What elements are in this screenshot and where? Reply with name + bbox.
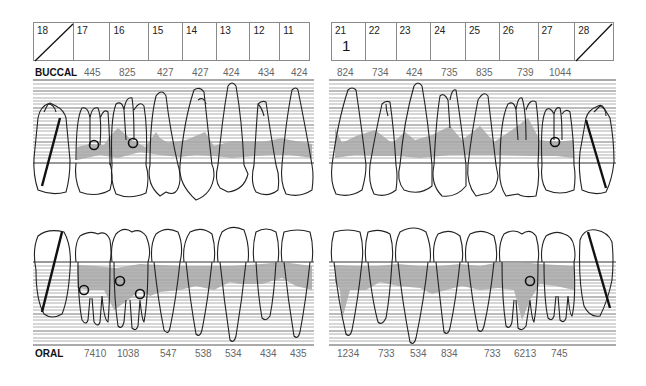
periodontal-chart-drawing: [0, 0, 646, 386]
